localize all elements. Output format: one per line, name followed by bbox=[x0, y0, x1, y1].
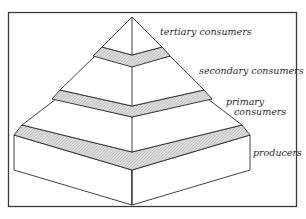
label-tertiary-consumers: tertiary consumers bbox=[160, 27, 252, 37]
label-primary-line2: consumers bbox=[226, 107, 286, 117]
label-primary-consumers: primary consumers bbox=[226, 97, 286, 117]
label-secondary-consumers: secondary consumers bbox=[199, 66, 304, 76]
label-producers: producers bbox=[253, 148, 302, 158]
